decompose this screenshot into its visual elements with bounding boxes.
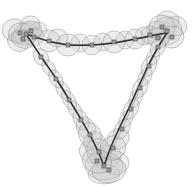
pose-marker xyxy=(67,98,71,102)
pose-marker xyxy=(54,77,58,81)
pose-marker xyxy=(29,29,33,33)
pose-marker xyxy=(111,146,115,150)
pose-marker xyxy=(156,45,160,49)
pose-marker xyxy=(112,40,116,44)
pose-marker xyxy=(95,159,99,163)
pose-marker xyxy=(156,36,160,40)
pose-marker xyxy=(160,25,164,29)
pose-marker xyxy=(97,150,101,154)
pose-marker xyxy=(79,118,83,122)
plot-canvas xyxy=(0,0,195,186)
pose-marker xyxy=(66,43,70,47)
pose-marker xyxy=(138,86,142,90)
pose-marker xyxy=(21,37,25,41)
pose-marker xyxy=(90,43,94,47)
pose-marker xyxy=(102,164,106,168)
pose-marker xyxy=(165,29,169,33)
pose-marker xyxy=(47,39,51,43)
pose-marker xyxy=(170,35,174,39)
pose-marker xyxy=(88,133,92,137)
pose-marker xyxy=(147,64,151,68)
pose-marker xyxy=(24,32,28,36)
pose-marker xyxy=(133,37,137,41)
pose-marker xyxy=(39,55,43,59)
pose-marker xyxy=(148,33,152,37)
pose-marker xyxy=(18,31,22,35)
pose-marker xyxy=(107,168,111,172)
pose-marker xyxy=(129,107,133,111)
pose-graph-figure xyxy=(0,0,195,186)
pose-marker xyxy=(32,35,36,39)
pose-marker xyxy=(120,127,124,131)
